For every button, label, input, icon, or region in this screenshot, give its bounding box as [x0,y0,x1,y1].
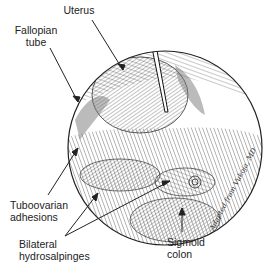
label-tuboovarian-line1: Tuboovarian [10,199,68,211]
label-bilateral-line1: Bilateral [19,238,90,250]
label-fallopian-line1: Fallopian [8,24,64,36]
scope-field [60,28,267,260]
label-uterus: Uterus [54,4,104,16]
label-fallopian-tube: Fallopian tube [8,24,64,48]
uterus-shape [92,57,188,133]
label-sigmoid-line1: Sigmoid [167,236,205,248]
label-tuboovarian-line2: adhesions [10,211,68,223]
label-fallopian-line2: tube [8,36,64,48]
label-bilateral-hydrosalpinges: Bilateral hydrosalpinges [19,238,90,262]
label-bilateral-line2: hydrosalpinges [19,250,90,262]
label-sigmoid-colon: Sigmoid colon [167,236,205,260]
label-tuboovarian-adhesions: Tuboovarian adhesions [10,199,68,223]
label-sigmoid-line2: colon [167,248,205,260]
